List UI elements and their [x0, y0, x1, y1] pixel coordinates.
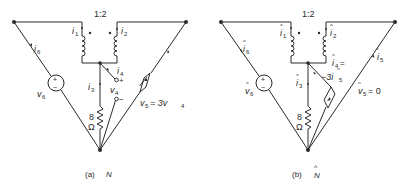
arrow-i1-icon	[81, 27, 83, 30]
arrow-i2-icon	[325, 27, 327, 30]
label-v6-sub: 6	[250, 91, 254, 97]
circuit-a: 1:2 i 1 i 2 i 6 + − v 6 i 3 i 4 + v 4 − …	[12, 9, 188, 179]
label-v5-value: = 0	[368, 86, 381, 96]
node-bottom	[306, 148, 310, 152]
polarity-dot-primary	[89, 32, 91, 34]
polarity-dot-primary	[298, 32, 300, 34]
terminal-plus	[115, 78, 119, 82]
label-i3-sub: 3	[91, 87, 95, 93]
polarity-dot-secondary	[318, 32, 320, 34]
label-i4-eq: =	[340, 59, 345, 68]
arrow-i6-icon	[240, 50, 242, 54]
wire-left-upper	[14, 22, 51, 76]
label-i4-value: −3i	[321, 72, 334, 82]
node-top-left	[219, 20, 223, 24]
transformer-primary-coil-icon	[291, 36, 294, 56]
label-i4-value-sub: 5	[339, 77, 343, 83]
turns-ratio-label: 1:2	[302, 9, 315, 19]
dependent-current-source-icon	[324, 87, 335, 108]
label-v5-equation-sub: 4	[181, 103, 185, 109]
caption-a-prefix: (a)	[85, 170, 95, 179]
label-i6-sub: 6	[37, 49, 41, 55]
wire-left-upper	[221, 22, 259, 76]
dependent-source-arrow-icon	[327, 97, 331, 101]
polarity-dot-secondary	[109, 32, 111, 34]
wire-left-lower	[61, 90, 100, 150]
caption-a-name: N	[106, 170, 112, 179]
resistor-icon	[305, 106, 311, 129]
label-i2-sub: 2	[124, 31, 128, 37]
resistor-icon	[97, 106, 103, 129]
node-bottom	[98, 148, 102, 152]
caption-b-prefix: (b)	[292, 170, 302, 179]
node-top-right	[393, 20, 397, 24]
transformer-secondary-coil-icon	[323, 36, 326, 56]
v4-plus-label: +	[119, 76, 124, 85]
source-minus-label: −	[261, 84, 265, 91]
arrow-i4-icon	[313, 72, 316, 75]
hat-i5-in-eq: ^	[337, 67, 340, 73]
label-i3-sub: 3	[299, 83, 303, 89]
label-v5-sub: 5	[363, 91, 367, 97]
arrow-i2-icon	[116, 27, 118, 30]
label-i2-sub: 2	[333, 33, 337, 39]
label-v5-equation: = 3v	[150, 98, 168, 108]
node-top-right	[184, 20, 188, 24]
arrow-i5-icon	[167, 50, 170, 53]
v4-minus-label: −	[119, 95, 124, 104]
wire-i4	[100, 63, 115, 79]
source-minus-label: −	[53, 84, 57, 91]
node-top-left	[12, 20, 16, 24]
source-plus-label: +	[261, 76, 265, 83]
resistor-unit: Ω	[296, 122, 303, 132]
circuit-figure: 1:2 i 1 i 2 i 6 + − v 6 i 3 i 4 + v 4 − …	[0, 0, 402, 189]
turns-ratio-label: 1:2	[94, 9, 107, 19]
transformer-primary-coil-icon	[82, 36, 85, 56]
label-i6-sub: 6	[246, 49, 250, 55]
resistor-unit: Ω	[88, 122, 95, 132]
arrow-i3-icon	[99, 83, 101, 86]
label-v5-sub: 5	[145, 103, 149, 109]
wire-right-short	[308, 22, 395, 150]
wire-left-lower	[269, 90, 308, 150]
transformer-secondary-coil-icon	[114, 36, 117, 56]
circuit-b: 1:2 ^ i 1 ^ i 2 ^ i 6 + − ^ v 6 ^ i 3 ^ …	[219, 9, 397, 180]
label-v6-sub: 6	[42, 94, 46, 100]
label-i1-sub: 1	[283, 33, 287, 39]
arrow-i1-icon	[290, 27, 292, 30]
dependent-source-symbol-icon	[140, 77, 148, 86]
terminal-minus	[115, 97, 119, 101]
caption-b-name: N	[314, 171, 320, 180]
label-i1-sub: 1	[75, 31, 79, 37]
arrow-i3-icon	[307, 83, 309, 86]
resistor-value: 8	[89, 112, 94, 122]
caption-b-hat: ^	[314, 164, 318, 171]
dependent-source-v5-icon	[140, 73, 150, 92]
label-i5-sub: 5	[380, 57, 384, 63]
resistor-value: 8	[297, 112, 302, 122]
wire-right-upper	[151, 22, 186, 73]
source-plus-label: +	[53, 76, 57, 83]
wire-dep-source-lower	[308, 107, 326, 150]
